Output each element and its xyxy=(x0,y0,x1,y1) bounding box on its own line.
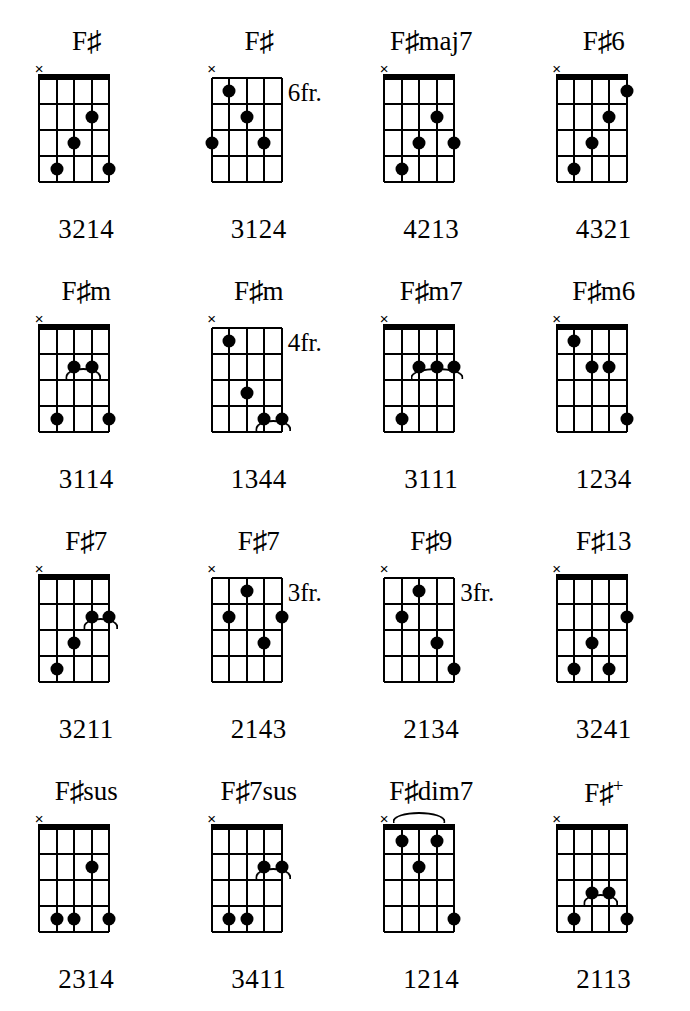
chord-cell[interactable]: F♯m×4fr.1344 xyxy=(173,276,346,526)
fret-line xyxy=(384,655,454,657)
nut-bar xyxy=(383,824,455,830)
fret-line xyxy=(212,129,282,131)
chord-cell[interactable]: F♯sus×2314 xyxy=(0,776,173,1011)
finger-dot xyxy=(620,413,633,426)
fret-line xyxy=(557,353,627,355)
fretboard-grid xyxy=(557,328,627,432)
chord-name: F♯sus xyxy=(55,776,118,810)
chord-cell[interactable]: F♯7sus×3411 xyxy=(173,776,346,1011)
chord-cell[interactable]: F♯dim7×1214 xyxy=(345,776,518,1011)
finger-dot xyxy=(223,611,236,624)
fret-line xyxy=(212,655,282,657)
chord-cell[interactable]: F♯×6fr.3124 xyxy=(173,26,346,276)
chord-cell[interactable]: F♯9×3fr.2134 xyxy=(345,526,518,776)
fretboard-grid xyxy=(39,78,109,182)
finger-dot xyxy=(68,913,81,926)
fret-line xyxy=(39,129,109,131)
sharp-symbol: ♯ xyxy=(249,275,263,307)
finger-dot xyxy=(258,137,271,150)
muted-string-marker: × xyxy=(207,311,216,326)
muted-string-marker: × xyxy=(380,811,389,826)
finger-dot xyxy=(603,111,616,124)
fret-line xyxy=(212,405,282,407)
finger-dot xyxy=(85,861,98,874)
finger-dot xyxy=(240,111,253,124)
sharp-symbol: ♯ xyxy=(591,525,605,557)
chord-diagram: × xyxy=(356,60,506,220)
chord-diagram: × xyxy=(356,310,506,470)
chord-name: F♯7 xyxy=(65,526,107,560)
finger-dot xyxy=(85,361,98,374)
chord-diagram: × xyxy=(11,560,161,720)
chord-row: F♯sus×2314F♯7sus×3411F♯dim7×1214F♯+×2113 xyxy=(0,776,690,1011)
finger-dot xyxy=(103,913,116,926)
fret-line xyxy=(384,103,454,105)
muted-string-marker: × xyxy=(207,811,216,826)
finger-dot xyxy=(68,137,81,150)
fingering-numbers: 4213 xyxy=(403,216,459,246)
finger-dot xyxy=(258,413,271,426)
chord-cell[interactable]: F♯m7×3111 xyxy=(345,276,518,526)
fret-line xyxy=(39,931,109,933)
chord-cell[interactable]: F♯7×3211 xyxy=(0,526,173,776)
chord-cell[interactable]: F♯m×3114 xyxy=(0,276,173,526)
finger-dot xyxy=(430,637,443,650)
sharp-symbol: ♯ xyxy=(77,275,91,307)
fret-line xyxy=(39,905,109,907)
finger-dot xyxy=(585,887,598,900)
fret-line xyxy=(212,155,282,157)
sharp-symbol: ♯ xyxy=(405,25,419,57)
fret-line xyxy=(384,681,454,683)
chord-name: F♯m6 xyxy=(572,276,635,310)
fret-line xyxy=(212,577,282,579)
chord-cell[interactable]: F♯×3214 xyxy=(0,26,173,276)
chord-sheet: F♯×3214F♯×6fr.3124F♯maj7×4213F♯6×4321F♯m… xyxy=(0,0,690,1011)
fret-line xyxy=(557,405,627,407)
fret-line xyxy=(384,879,454,881)
fret-line xyxy=(384,853,454,855)
muted-string-marker: × xyxy=(35,311,44,326)
finger-dot xyxy=(223,85,236,98)
muted-string-marker: × xyxy=(552,561,561,576)
chord-diagram: × xyxy=(529,60,679,220)
chord-cell[interactable]: F♯7×3fr.2143 xyxy=(173,526,346,776)
muted-string-marker: × xyxy=(35,561,44,576)
chord-diagram: ×3fr. xyxy=(356,560,506,720)
fret-line xyxy=(384,353,454,355)
finger-dot xyxy=(413,137,426,150)
finger-dot xyxy=(50,163,63,176)
finger-dot xyxy=(205,137,218,150)
fret-line xyxy=(557,129,627,131)
chord-name: F♯dim7 xyxy=(389,776,473,810)
finger-dot xyxy=(103,611,116,624)
muted-string-marker: × xyxy=(552,311,561,326)
nut-bar xyxy=(556,574,628,580)
barre-arc xyxy=(393,812,446,823)
finger-dot xyxy=(585,637,598,650)
fingering-numbers: 2134 xyxy=(403,716,459,746)
finger-dot xyxy=(85,111,98,124)
chord-cell[interactable]: F♯m6×1234 xyxy=(518,276,690,526)
chord-cell[interactable]: F♯maj7×4213 xyxy=(345,26,518,276)
chord-cell[interactable]: F♯+×2113 xyxy=(518,776,690,1011)
chord-name: F♯9 xyxy=(410,526,452,560)
fingering-numbers: 3114 xyxy=(59,466,114,496)
chord-cell[interactable]: F♯13×3241 xyxy=(518,526,690,776)
finger-dot xyxy=(275,413,288,426)
fret-line xyxy=(212,431,282,433)
finger-dot xyxy=(68,637,81,650)
fret-line xyxy=(212,379,282,381)
finger-dot xyxy=(50,663,63,676)
finger-dot xyxy=(275,861,288,874)
chord-diagram: × xyxy=(529,310,679,470)
finger-dot xyxy=(275,611,288,624)
muted-string-marker: × xyxy=(207,61,216,76)
fret-line xyxy=(384,431,454,433)
chord-cell[interactable]: F♯6×4321 xyxy=(518,26,690,276)
fingering-numbers: 3211 xyxy=(59,716,114,746)
fingering-numbers: 1234 xyxy=(576,466,632,496)
finger-dot xyxy=(240,913,253,926)
chord-name: F♯+ xyxy=(584,776,623,810)
sharp-symbol: ♯ xyxy=(253,525,267,557)
fret-line xyxy=(212,905,282,907)
